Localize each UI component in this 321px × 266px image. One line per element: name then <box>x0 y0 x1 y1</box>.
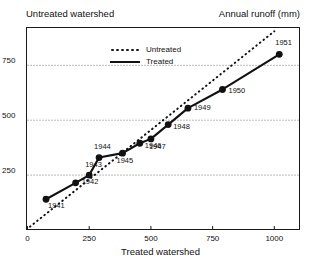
y-tick-label-250: 250 <box>2 166 15 175</box>
chart-canvas <box>0 0 321 266</box>
x-tick-marks <box>28 226 275 230</box>
dotted-line-icon <box>110 45 140 55</box>
x-tick-label-500: 500 <box>144 234 157 243</box>
legend-item-treated: Treated <box>110 56 181 68</box>
x-tick-label-250: 250 <box>83 234 96 243</box>
point-label-1951: 1951 <box>275 38 292 47</box>
chart-figure: Untreated watershed Annual runoff (mm) 2… <box>0 0 321 266</box>
legend-label-treated: Treated <box>146 57 173 67</box>
point-label-1947: 1947 <box>149 142 166 151</box>
data-point-1950 <box>219 86 226 93</box>
data-point-1946 <box>136 140 143 147</box>
point-label-1944: 1944 <box>94 142 111 151</box>
point-label-1949: 1949 <box>194 103 211 112</box>
x-tick-label-1000: 1000 <box>265 234 283 243</box>
data-point-1951 <box>276 51 283 58</box>
point-label-1943: 1943 <box>85 160 102 169</box>
point-label-1950: 1950 <box>228 86 245 95</box>
x-tick-label-0: 0 <box>25 234 29 243</box>
x-tick-label-750: 750 <box>206 234 219 243</box>
point-label-1942: 1942 <box>82 177 99 186</box>
point-label-1948: 1948 <box>173 122 190 131</box>
y-tick-label-750: 750 <box>2 56 15 65</box>
solid-line-icon <box>110 57 140 67</box>
legend-item-untreated: Untreated <box>110 44 181 56</box>
data-point-1942 <box>72 179 79 186</box>
chart-legend: Untreated Treated <box>110 44 181 68</box>
point-label-1945: 1945 <box>117 156 134 165</box>
x-axis-title: Treated watershed <box>121 246 200 257</box>
legend-label-untreated: Untreated <box>146 45 181 55</box>
data-point-1949 <box>185 105 192 112</box>
data-point-1948 <box>165 121 172 128</box>
y-tick-label-500: 500 <box>2 111 15 120</box>
point-label-1941: 1941 <box>48 201 65 210</box>
